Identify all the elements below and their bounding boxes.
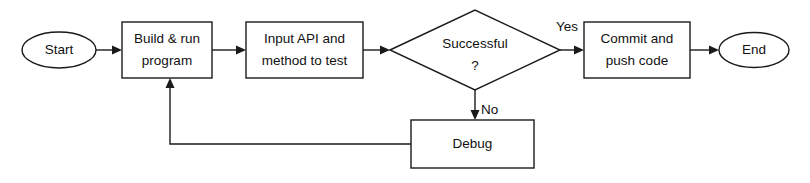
node-input-api-method[interactable]: Input API and method to test <box>246 22 363 78</box>
arrowhead-icon <box>709 46 719 55</box>
edge-build-to-input <box>212 46 246 55</box>
decision-label-line2: ? <box>471 58 479 73</box>
edge-commit-to-end <box>690 46 719 55</box>
flowchart-diagram: Start Build & run program Input API and … <box>0 0 810 183</box>
node-commit-push-code[interactable]: Commit and push code <box>584 22 690 78</box>
arrowhead-icon <box>112 46 122 55</box>
edge-label-no: No <box>481 102 498 117</box>
input-label-line1: Input API and <box>264 31 345 46</box>
decision-label-line1: Successful <box>442 36 507 51</box>
arrowhead-icon <box>574 46 584 55</box>
edge-decision-to-commit-yes <box>560 46 584 55</box>
node-start[interactable]: Start <box>22 32 96 68</box>
arrowhead-icon <box>236 46 246 55</box>
node-end[interactable]: End <box>719 33 789 68</box>
debug-label: Debug <box>453 136 493 151</box>
build-label-line1: Build & run <box>134 31 200 46</box>
edge-debug-to-build-loop <box>166 78 412 144</box>
arrowhead-icon <box>166 78 175 88</box>
flowchart-canvas: Start Build & run program Input API and … <box>0 0 810 183</box>
commit-label-line2: push code <box>606 53 668 68</box>
build-label-line2: program <box>142 53 192 68</box>
edge-label-yes: Yes <box>556 19 578 34</box>
end-label: End <box>742 42 766 57</box>
input-label-line2: method to test <box>262 53 348 68</box>
node-decision-successful[interactable]: Successful ? <box>390 10 560 90</box>
edge-input-to-decision <box>363 46 390 55</box>
edge-decision-to-debug-no <box>471 90 480 120</box>
edge-start-to-build <box>96 46 122 55</box>
commit-label-line1: Commit and <box>601 31 674 46</box>
arrowhead-icon <box>471 110 480 120</box>
node-build-run-program[interactable]: Build & run program <box>122 22 212 78</box>
start-label: Start <box>45 42 74 57</box>
node-debug[interactable]: Debug <box>411 120 534 168</box>
